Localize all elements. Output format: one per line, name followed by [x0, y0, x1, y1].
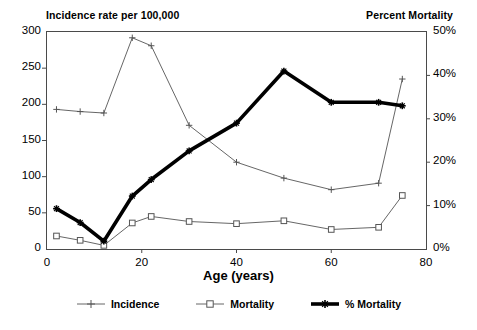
- x-tick-20: 20: [117, 256, 167, 268]
- thick-line-marker: [310, 298, 340, 310]
- y-left-tick-0: 0: [2, 241, 41, 253]
- x-tick-60: 60: [306, 256, 356, 268]
- y-left-tick-100: 100: [2, 169, 41, 181]
- legend-label: Mortality: [230, 298, 274, 310]
- y-left-tick-250: 250: [2, 60, 41, 72]
- y-left-tick-200: 200: [2, 96, 41, 108]
- y-right-tick-50: 50%: [433, 24, 477, 36]
- y-right-tick-10: 10%: [433, 198, 477, 210]
- square-marker: [195, 298, 225, 310]
- x-tick-40: 40: [212, 256, 262, 268]
- chart-figure: Incidence rate per 100,000 Percent Morta…: [0, 0, 477, 330]
- x-tick-0: 0: [22, 256, 72, 268]
- y-left-tick-300: 300: [2, 24, 41, 36]
- y-right-tick-0: 0%: [433, 241, 477, 253]
- y-left-tick-50: 50: [2, 205, 41, 217]
- y-right-tick-30: 30%: [433, 111, 477, 123]
- legend-item-mortality[interactable]: Mortality: [195, 298, 274, 310]
- legend-item-mortality[interactable]: % Mortality: [310, 298, 401, 310]
- x-axis-title: Age (years): [0, 268, 477, 283]
- x-tick-80: 80: [401, 256, 451, 268]
- legend-item-incidence[interactable]: Incidence: [76, 298, 159, 310]
- y-left-tick-150: 150: [2, 133, 41, 145]
- legend-label: % Mortality: [345, 298, 401, 310]
- chart-legend: IncidenceMortality% Mortality: [0, 294, 477, 314]
- y-right-tick-40: 40%: [433, 67, 477, 79]
- y-right-tick-20: 20%: [433, 154, 477, 166]
- plus-marker: [76, 298, 106, 310]
- legend-label: Incidence: [111, 298, 159, 310]
